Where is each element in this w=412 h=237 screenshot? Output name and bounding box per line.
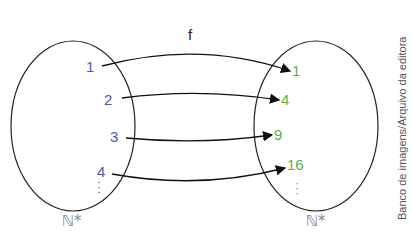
- codomain-ellipse: [254, 41, 378, 211]
- domain-element-3: 3: [110, 129, 118, 144]
- codomain-element-16: 16: [287, 157, 304, 172]
- arrow-1-to-1: [102, 54, 290, 71]
- domain-ellipsis: ···: [96, 180, 102, 195]
- codomain-set-name: ℕ*: [306, 212, 326, 230]
- codomain-element-1: 1: [292, 63, 300, 78]
- domain-element-1: 1: [86, 59, 94, 74]
- arrow-2-to-4: [122, 93, 279, 100]
- image-credit: Banco de imagens/Arquivo da editora: [396, 37, 408, 220]
- arrow-3-to-9: [126, 135, 272, 141]
- arrow-4-to-16: [112, 168, 285, 181]
- codomain-element-9: 9: [274, 127, 282, 142]
- codomain-element-4: 4: [281, 92, 289, 107]
- diagram-canvas: [0, 0, 412, 237]
- domain-set-name: ℕ*: [62, 212, 82, 230]
- domain-ellipse: [11, 41, 135, 211]
- codomain-ellipsis: ···: [294, 181, 300, 196]
- domain-element-2: 2: [104, 92, 112, 107]
- function-label: f: [188, 26, 192, 43]
